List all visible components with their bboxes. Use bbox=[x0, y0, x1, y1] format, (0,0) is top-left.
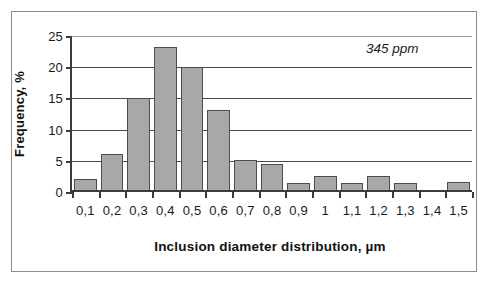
y-axis-tick bbox=[66, 130, 72, 132]
x-axis-tick bbox=[99, 192, 101, 198]
x-axis-tick-label: 1 bbox=[322, 203, 329, 218]
x-axis-tick bbox=[339, 192, 341, 198]
x-axis-tick-label: 0,7 bbox=[236, 203, 255, 218]
x-axis-tick-label: 0,6 bbox=[209, 203, 228, 218]
y-axis-tick bbox=[66, 161, 72, 163]
y-axis-tick-label: 15 bbox=[48, 91, 63, 106]
x-axis-tick-label: 0,4 bbox=[156, 203, 175, 218]
x-axis-tick-label: 0,9 bbox=[289, 203, 308, 218]
bar bbox=[261, 164, 283, 192]
x-axis-line bbox=[72, 190, 472, 192]
x-axis-tick bbox=[259, 192, 261, 198]
bar bbox=[234, 160, 256, 192]
x-axis-tick-label: 1,5 bbox=[449, 203, 468, 218]
bar-slot bbox=[152, 36, 179, 192]
annotation-345-ppm: 345 ppm bbox=[366, 41, 419, 56]
x-axis-tick-label: 0,3 bbox=[129, 203, 148, 218]
x-axis-tick bbox=[312, 192, 314, 198]
bar-slot bbox=[365, 36, 392, 192]
x-axis-tick-label: 0,5 bbox=[183, 203, 202, 218]
y-axis-tick-label: 25 bbox=[48, 29, 63, 44]
x-axis-tick-label: 1,3 bbox=[396, 203, 415, 218]
bar bbox=[154, 47, 176, 192]
bar-slot bbox=[419, 36, 446, 192]
x-axis-tick bbox=[205, 192, 207, 198]
y-axis-tick-label: 5 bbox=[56, 153, 63, 168]
x-axis-tick bbox=[179, 192, 181, 198]
x-axis-tick bbox=[152, 192, 154, 198]
plot-area: 0510152025 0,10,20,30,40,50,60,70,80,911… bbox=[70, 36, 470, 192]
bar-slot bbox=[392, 36, 419, 192]
x-axis-tick bbox=[72, 192, 74, 198]
bar-slot bbox=[285, 36, 312, 192]
x-axis-tick bbox=[392, 192, 394, 198]
x-axis-tick-label: 1,2 bbox=[369, 203, 388, 218]
x-axis-tick-label: 1,1 bbox=[343, 203, 362, 218]
y-axis-tick-label: 10 bbox=[48, 122, 63, 137]
bar bbox=[101, 154, 123, 192]
y-axis-tick-label: 0 bbox=[56, 185, 63, 200]
bar-slot bbox=[232, 36, 259, 192]
y-axis-tick bbox=[66, 67, 72, 69]
bar-slot bbox=[125, 36, 152, 192]
x-axis-tick-label: 0,2 bbox=[103, 203, 122, 218]
chart-figure: Frequency, % 0510152025 0,10,20,30,40,50… bbox=[0, 0, 489, 282]
x-axis-tick-label: 0,8 bbox=[263, 203, 282, 218]
y-axis-tick bbox=[66, 98, 72, 100]
bar-slot bbox=[72, 36, 99, 192]
bar bbox=[207, 110, 229, 192]
bar-slot bbox=[259, 36, 286, 192]
y-axis-tick-label: 20 bbox=[48, 60, 63, 75]
bar bbox=[181, 67, 203, 192]
bar-slot bbox=[99, 36, 126, 192]
x-axis-tick bbox=[445, 192, 447, 198]
x-axis-title: Inclusion diameter distribution, µm bbox=[70, 239, 470, 254]
x-axis-tick-label: 0,1 bbox=[76, 203, 95, 218]
bar bbox=[127, 98, 149, 192]
x-axis-tick bbox=[125, 192, 127, 198]
bar-slot bbox=[312, 36, 339, 192]
bar-slot bbox=[445, 36, 472, 192]
bar-series bbox=[72, 36, 472, 192]
y-axis-title: Frequency, % bbox=[12, 71, 27, 157]
x-axis-tick-label: 1,4 bbox=[423, 203, 442, 218]
x-axis-tick bbox=[365, 192, 367, 198]
y-axis-tick bbox=[66, 36, 72, 38]
x-axis-tick bbox=[419, 192, 421, 198]
bar-slot bbox=[339, 36, 366, 192]
x-axis-tick bbox=[285, 192, 287, 198]
bar-slot bbox=[205, 36, 232, 192]
x-axis-tick bbox=[232, 192, 234, 198]
bar-slot bbox=[179, 36, 206, 192]
x-axis-tick bbox=[472, 192, 474, 198]
